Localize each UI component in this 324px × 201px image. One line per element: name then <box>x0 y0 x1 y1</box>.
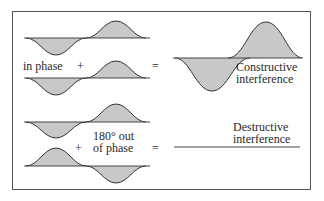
equals-sign: = <box>152 60 159 72</box>
plus-sign: + <box>75 142 82 154</box>
equals-sign: = <box>152 142 159 154</box>
out-of-phase-label-line2: of phase <box>93 142 133 154</box>
wave-diagram <box>0 0 324 201</box>
constructive-label-line2: interference <box>236 73 293 85</box>
in-phase-label: in phase <box>23 60 63 72</box>
wave-in-phase-1 <box>24 21 150 55</box>
plus-sign: + <box>77 60 84 72</box>
destructive-label-line2: interference <box>233 133 290 145</box>
